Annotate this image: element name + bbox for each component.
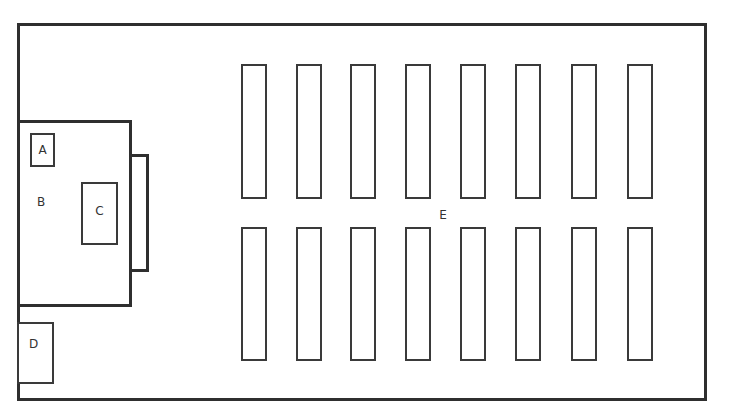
desk-bottom-6	[515, 227, 541, 361]
label-d: D	[29, 337, 38, 382]
desk-top-7	[571, 64, 597, 199]
desk-bottom-5	[460, 227, 486, 361]
desk-bottom-4	[405, 227, 431, 361]
label-b: B	[37, 196, 45, 208]
label-e: E	[439, 209, 447, 221]
desk-bottom-2	[296, 227, 322, 361]
desk-top-4	[405, 64, 431, 199]
desk-top-1	[241, 64, 267, 199]
desk-bottom-8	[627, 227, 653, 361]
desk-bottom-7	[571, 227, 597, 361]
desk-top-3	[350, 64, 376, 199]
label-c: C	[95, 204, 103, 218]
zone-c: C	[81, 182, 118, 245]
desk-top-5	[460, 64, 486, 199]
desk-bottom-1	[241, 227, 267, 361]
desk-bottom-3	[350, 227, 376, 361]
desk-top-6	[515, 64, 541, 199]
label-a: A	[38, 143, 46, 157]
zone-d: D	[17, 322, 54, 384]
desk-top-8	[627, 64, 653, 199]
desk-top-2	[296, 64, 322, 199]
zone-a: A	[30, 133, 55, 167]
